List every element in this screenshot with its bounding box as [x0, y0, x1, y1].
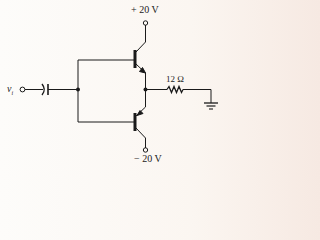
load-resistor [167, 87, 183, 93]
npn-collector [136, 42, 146, 52]
positive-supply-terminal [143, 21, 147, 25]
input-label-subscript: i [11, 90, 13, 96]
pnp-collector [136, 128, 146, 138]
input-label: vi [7, 83, 13, 96]
negative-supply-label: − 20 V [134, 153, 162, 164]
input-terminal [20, 87, 25, 92]
pnp-emitter-arrow [137, 111, 143, 116]
ground-icon [204, 103, 218, 109]
junction-dot-base [76, 88, 80, 92]
resistor-value-label: 12 Ω [166, 74, 184, 84]
negative-supply-terminal [143, 148, 147, 152]
circuit-schematic [0, 0, 227, 175]
positive-supply-label: + 20 V [131, 4, 159, 15]
junction-dot-output [144, 88, 148, 92]
